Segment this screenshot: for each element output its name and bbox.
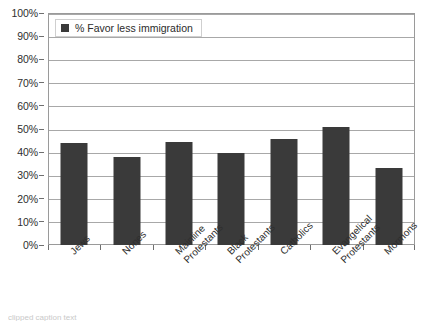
bar-chart-figure: 0%10%20%30%40%50%60%70%80%90%100% JewsNo… bbox=[0, 0, 429, 321]
bar[interactable] bbox=[61, 143, 88, 245]
y-axis: 0%10%20%30%40%50%60%70%80%90%100% bbox=[0, 13, 44, 245]
bar-slot bbox=[48, 13, 100, 245]
y-tick-label: 50% bbox=[17, 123, 38, 135]
bar-slot bbox=[363, 13, 415, 245]
figure-caption-text: clipped caption text bbox=[8, 314, 308, 321]
y-tick-mark bbox=[39, 105, 44, 106]
y-tick-label: 60% bbox=[17, 100, 38, 112]
chart-legend: % Favor less immigration bbox=[55, 19, 202, 37]
bar-slot bbox=[310, 13, 362, 245]
bar-slot bbox=[205, 13, 257, 245]
y-tick-mark bbox=[39, 129, 44, 130]
y-tick-mark bbox=[39, 59, 44, 60]
figure-caption-clipped: clipped caption text bbox=[8, 314, 308, 321]
y-tick-label: 90% bbox=[17, 30, 38, 42]
legend-label: % Favor less immigration bbox=[75, 22, 193, 34]
y-tick-label: 0% bbox=[23, 239, 38, 251]
y-tick-mark bbox=[39, 82, 44, 83]
y-tick-mark bbox=[39, 13, 44, 14]
legend-swatch-icon bbox=[61, 24, 69, 32]
y-tick-label: 10% bbox=[17, 216, 38, 228]
y-tick-mark bbox=[39, 198, 44, 199]
bar[interactable] bbox=[166, 142, 193, 245]
y-tick-label: 100% bbox=[12, 7, 38, 19]
y-tick-mark bbox=[39, 175, 44, 176]
x-axis-labels: JewsNonesMainlineProtestantsBlackProtest… bbox=[48, 249, 415, 317]
y-tick-mark bbox=[39, 152, 44, 153]
y-tick-label: 70% bbox=[17, 77, 38, 89]
bar-slot bbox=[100, 13, 152, 245]
bars-layer bbox=[48, 13, 415, 245]
y-tick-label: 20% bbox=[17, 193, 38, 205]
y-tick-label: 30% bbox=[17, 169, 38, 181]
y-tick-mark bbox=[39, 36, 44, 37]
bar-slot bbox=[153, 13, 205, 245]
y-tick-mark bbox=[39, 245, 44, 246]
y-tick-mark bbox=[39, 221, 44, 222]
bar[interactable] bbox=[323, 127, 350, 245]
y-tick-label: 80% bbox=[17, 53, 38, 65]
bar-slot bbox=[258, 13, 310, 245]
y-tick-label: 40% bbox=[17, 146, 38, 158]
